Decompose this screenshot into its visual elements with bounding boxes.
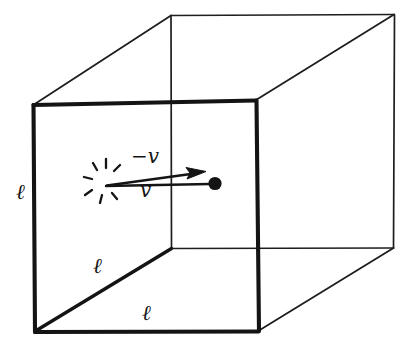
depth-edge-bottom-right: [259, 248, 394, 331]
depth-edge-top-left: [34, 16, 171, 105]
velocity-arrow: [107, 168, 206, 186]
starburst-ray: [93, 163, 97, 170]
front-edge-bottom: [35, 332, 259, 333]
starburst-ray: [114, 165, 120, 171]
back-edge-left: [171, 16, 172, 249]
velocity-label-outgoing: v: [140, 180, 151, 200]
back-edge-right: [394, 15, 395, 249]
starburst-ray: [100, 195, 102, 203]
edge-length-label-left: ℓ: [16, 182, 25, 203]
starburst-ray: [112, 193, 117, 199]
collision-starburst-icon: [84, 159, 120, 203]
back-edge-top: [171, 15, 394, 16]
velocity-label-incoming: −v: [131, 146, 159, 166]
edge-length-label-bottom: ℓ: [142, 303, 151, 324]
back-edge-bottom: [172, 248, 394, 249]
particle-dot: [208, 177, 221, 190]
cube-velocity-figure: ℓ ℓ ℓ −v v: [0, 0, 417, 353]
front-edge-top: [34, 101, 257, 106]
edge-length-label-depth: ℓ: [93, 256, 102, 277]
front-edge-left: [34, 105, 36, 332]
cube-depth-edges: [34, 15, 394, 331]
starburst-ray: [84, 177, 92, 179]
cube-back-face: [171, 15, 395, 249]
depth-edge-bottom-left: [36, 249, 172, 332]
starburst-ray: [85, 190, 92, 195]
cube-front-face: [34, 101, 260, 333]
front-edge-right: [257, 101, 260, 332]
depth-edge-top-right: [256, 15, 394, 101]
cube-drawing: [0, 0, 417, 353]
